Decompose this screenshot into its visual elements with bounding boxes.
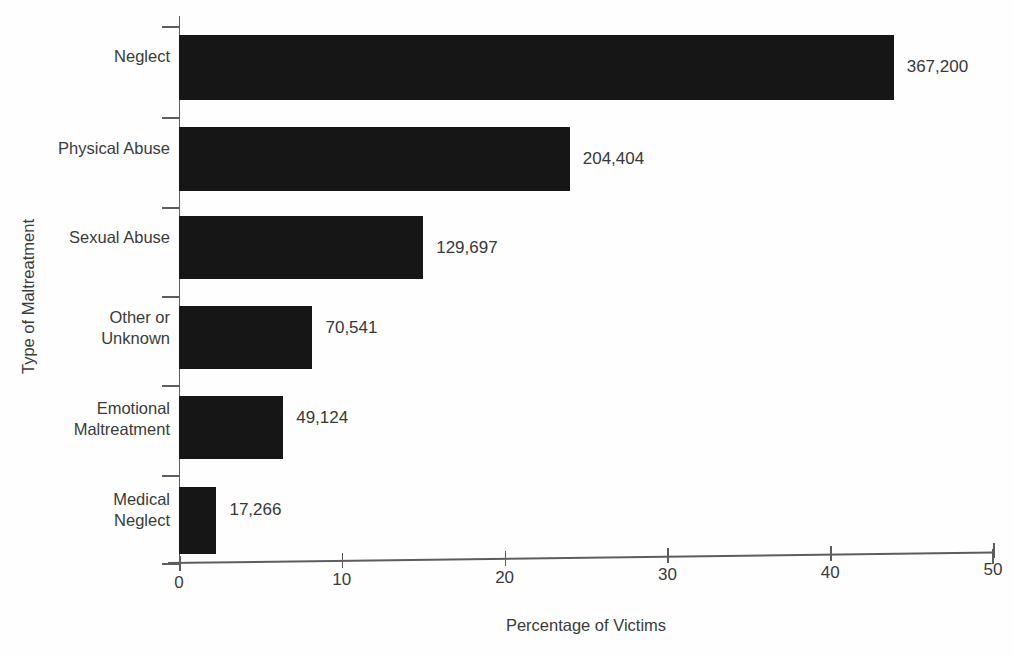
category-label: Emotional Maltreatment bbox=[0, 398, 170, 440]
bar-other-or-unknown bbox=[179, 306, 312, 369]
bar-medical-neglect bbox=[179, 487, 216, 554]
y-axis-tick bbox=[162, 475, 179, 477]
bar-emotional-maltreatment bbox=[179, 396, 283, 459]
x-axis-tick-label: 10 bbox=[322, 570, 362, 590]
x-axis-tick bbox=[505, 551, 507, 566]
x-axis-tick-label: 50 bbox=[973, 560, 1013, 580]
x-axis-tick-label: 40 bbox=[810, 563, 850, 583]
bar-sexual-abuse bbox=[179, 216, 423, 279]
x-axis-tick-label: 30 bbox=[647, 565, 687, 585]
x-axis-tick bbox=[830, 546, 832, 561]
y-axis-tick bbox=[162, 117, 179, 119]
bar-value-label: 70,541 bbox=[325, 318, 377, 338]
bar-value-label: 129,697 bbox=[436, 238, 497, 258]
y-axis-tick bbox=[162, 207, 179, 209]
y-axis-tick bbox=[162, 563, 179, 565]
x-axis-tick-label: 20 bbox=[485, 568, 525, 588]
y-axis-title: Type of Maltreatment bbox=[19, 187, 38, 407]
y-axis-tick bbox=[162, 26, 179, 28]
x-axis-line bbox=[168, 552, 994, 564]
bar-value-label: 17,266 bbox=[229, 500, 281, 520]
y-axis-tick bbox=[162, 296, 179, 298]
bar-value-label: 367,200 bbox=[907, 57, 968, 77]
bar-physical-abuse bbox=[179, 127, 570, 191]
x-axis-tick bbox=[179, 556, 181, 571]
category-label: Physical Abuse bbox=[0, 138, 170, 159]
category-label: Sexual Abuse bbox=[0, 227, 170, 248]
chart-page: Type of Maltreatment Percentage of Victi… bbox=[0, 0, 1013, 655]
bar-neglect bbox=[179, 35, 894, 100]
bar-value-label: 49,124 bbox=[296, 408, 348, 428]
category-label: Medical Neglect bbox=[0, 489, 170, 531]
x-axis-title: Percentage of Victims bbox=[179, 616, 993, 635]
x-axis-tick bbox=[993, 543, 995, 558]
category-label: Neglect bbox=[0, 46, 170, 67]
y-axis-tick bbox=[162, 385, 179, 387]
bar-chart-plot: Type of Maltreatment Percentage of Victi… bbox=[0, 0, 1013, 655]
x-axis-tick bbox=[667, 548, 669, 563]
x-axis-tick bbox=[342, 553, 344, 568]
category-label: Other or Unknown bbox=[0, 307, 170, 349]
bar-value-label: 204,404 bbox=[583, 149, 644, 169]
x-axis-tick-label: 0 bbox=[159, 573, 199, 593]
